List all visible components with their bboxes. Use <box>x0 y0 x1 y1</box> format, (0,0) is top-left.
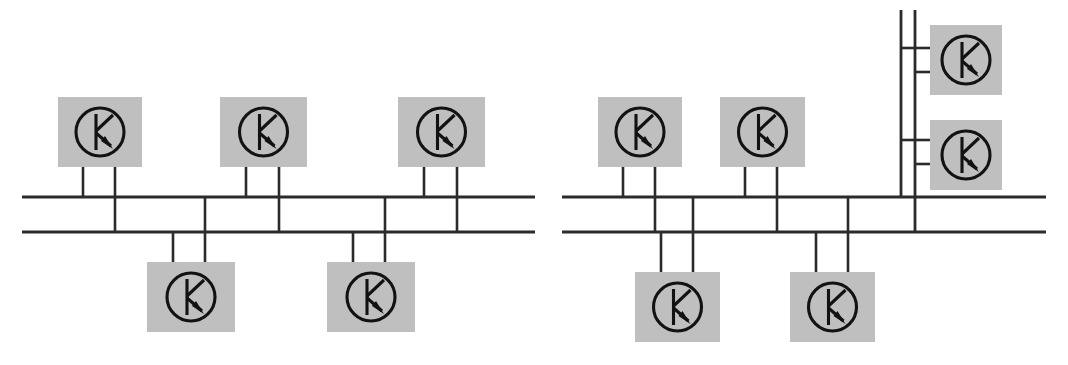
device-l-t3 <box>398 97 485 167</box>
device-l-t2 <box>220 97 307 167</box>
schematic-canvas <box>0 0 1068 365</box>
wire-layer <box>22 10 1046 272</box>
device-r-s1 <box>930 25 1002 95</box>
device-r-s2 <box>930 120 1002 190</box>
device-l-b1 <box>147 262 235 332</box>
device-l-b2 <box>327 262 415 332</box>
schematic-figure <box>0 0 1068 365</box>
device-layer <box>58 25 1002 342</box>
device-r-t2 <box>720 97 805 167</box>
device-l-t1 <box>58 97 142 167</box>
device-r-b2 <box>790 272 875 342</box>
device-r-b1 <box>635 272 720 342</box>
device-r-t1 <box>598 97 682 167</box>
